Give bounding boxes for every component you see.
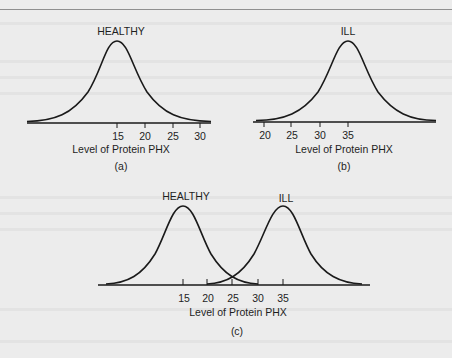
tick-label-c: 35 — [277, 293, 289, 304]
tick-label-b: 25 — [286, 130, 298, 141]
panel-a-plot — [27, 41, 211, 128]
tick-label-a: 20 — [139, 131, 151, 142]
series-label-ill-c: ILL — [279, 193, 294, 204]
figure-canvas — [0, 0, 452, 358]
tick-label-a: 25 — [167, 131, 179, 142]
series-label-healthy-a: HEALTHY — [97, 26, 145, 37]
tick-label-c: 15 — [178, 293, 190, 304]
series-label-ill-b: ILL — [341, 26, 356, 37]
x-axis-label-b: Level of Protein PHX — [295, 144, 392, 155]
ill-curve-c — [207, 206, 362, 284]
panel-caption-c: (c) — [231, 326, 243, 337]
tick-label-b: 30 — [314, 130, 326, 141]
panel-caption-a: (a) — [115, 161, 128, 172]
healthy-curve-c — [106, 206, 258, 284]
figure-page: HEALTHY 15 20 25 30 Level of Protein PHX… — [0, 0, 452, 358]
panel-c-plot — [98, 206, 370, 285]
tick-label-c: 20 — [202, 293, 214, 304]
tick-label-a: 30 — [194, 131, 206, 142]
x-axis-label-c: Level of Protein PHX — [189, 307, 286, 318]
tick-label-c: 30 — [252, 293, 264, 304]
tick-label-b: 20 — [259, 130, 271, 141]
panel-caption-b: (b) — [338, 161, 351, 172]
tick-label-a: 15 — [112, 131, 124, 142]
healthy-curve-a — [27, 41, 211, 122]
tick-label-b: 35 — [342, 130, 354, 141]
panel-b-plot — [253, 41, 436, 127]
tick-label-c: 25 — [227, 293, 239, 304]
x-axis-label-a: Level of Protein PHX — [72, 144, 169, 155]
ill-curve-b — [256, 41, 436, 121]
series-label-healthy-c: HEALTHY — [162, 191, 210, 202]
